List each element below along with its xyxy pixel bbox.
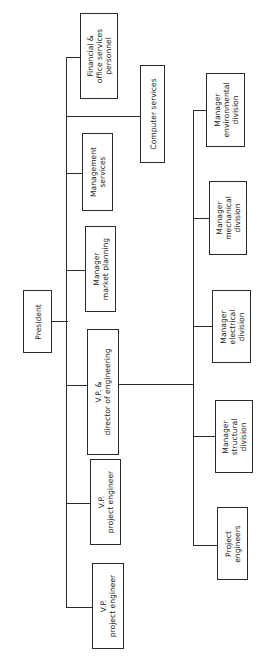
fin-label: Financial & office services personnel — [86, 29, 113, 83]
connector-struct — [193, 436, 215, 437]
financial-office-services-box: Financial & office services personnel — [80, 13, 118, 99]
env-label: Manager environmental division — [212, 82, 239, 137]
divisions-trunk-line — [193, 110, 194, 546]
president-label: President — [33, 304, 42, 339]
connector-vpdir — [66, 385, 87, 386]
vpdir-to-divisions-line — [119, 384, 194, 385]
connector-mgmt — [66, 173, 82, 174]
connector-mech — [193, 218, 209, 219]
project-engineers-box: Project engineers — [217, 507, 248, 580]
vp2-label: V.P. project engineer — [97, 471, 115, 533]
manager-electrical-box: Manager electrical division — [212, 290, 251, 363]
mech-label: Manager mechanical division — [215, 196, 242, 240]
connector-comp — [66, 116, 140, 117]
pe-label: Project engineers — [224, 525, 242, 563]
mkt-label: Manager market planning — [92, 238, 110, 300]
vp-director-engineering-box: V.P. & director of engineering — [87, 329, 119, 455]
vp-project-engineer-box-2: V.P. project engineer — [90, 459, 121, 545]
connector-env — [193, 110, 206, 111]
comp-label: Computer services — [148, 78, 157, 149]
management-services-box: Management services — [82, 133, 113, 211]
struct-label: Manager structural division — [221, 418, 248, 455]
computer-services-box: Computer services — [140, 65, 165, 163]
vpdir-label: V.P. & director of engineering — [94, 348, 112, 435]
connector-pe — [193, 545, 217, 546]
manager-structural-box: Manager structural division — [215, 400, 253, 473]
president-box: President — [23, 290, 52, 353]
connector-vp1 — [66, 607, 92, 608]
main-trunk-line — [66, 57, 67, 608]
connector-vp2 — [66, 503, 90, 504]
connector-mkt — [66, 270, 85, 271]
manager-mechanical-box: Manager mechanical division — [209, 181, 247, 255]
elec-label: Manager electrical division — [218, 309, 245, 344]
mgmt-label: Management services — [89, 147, 107, 197]
manager-market-planning-box: Manager market planning — [85, 226, 116, 312]
connector-fin — [66, 57, 80, 58]
connector-elec — [193, 326, 212, 327]
manager-environmental-box: Manager environmental division — [206, 73, 245, 147]
vp-project-engineer-box-1: V.P. project engineer — [92, 563, 124, 649]
vp1-label: V.P. project engineer — [99, 575, 117, 637]
